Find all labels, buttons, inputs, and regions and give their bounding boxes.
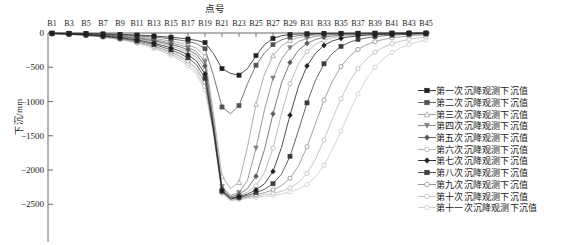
- series-line: [50, 32, 428, 201]
- legend-marker-icon: [418, 144, 436, 155]
- legend-marker-icon: [418, 85, 436, 96]
- x-tick-label: B27: [266, 19, 279, 28]
- legend-item[interactable]: 第六次沉降观测下沉值: [418, 143, 580, 155]
- series-line: [50, 31, 429, 199]
- legend-marker-icon: [418, 155, 436, 166]
- series-line: [50, 32, 428, 201]
- chart-title: 点号: [0, 1, 430, 15]
- legend-marker-icon: [418, 97, 436, 108]
- legend-marker-icon: [418, 191, 436, 202]
- x-tick-label: B23: [232, 19, 245, 28]
- legend-item[interactable]: 第九次沉降观测下沉值: [418, 179, 580, 191]
- axis-spines: [48, 33, 430, 242]
- y-tick-label: −2500: [4, 199, 44, 209]
- y-tick-label: −500: [4, 62, 44, 72]
- x-tick-label: B17: [181, 19, 194, 28]
- legend-item[interactable]: 第二次沉降观测下沉值: [418, 97, 580, 109]
- x-tick-label: B39: [368, 19, 381, 28]
- x-axis-tick-labels: B1B3B5B7B9B11B13B15B17B19B21B23B25B27B29…: [0, 19, 580, 32]
- legend-marker-icon: [418, 120, 436, 131]
- y-tick-label: −1500: [4, 131, 44, 141]
- legend-marker-icon: [418, 179, 436, 190]
- x-tick-label: B41: [385, 19, 398, 28]
- x-tick-label: B11: [130, 19, 143, 28]
- legend-item[interactable]: 第七次沉降观测下沉值: [418, 155, 580, 167]
- legend-marker-icon: [418, 202, 436, 213]
- chart-root: 点号 下沉/mm 0−500−1000−1500−2000−2500 B1B3B…: [0, 0, 580, 245]
- series-line: [50, 31, 429, 195]
- legend-item[interactable]: 第八次沉降观测下沉值: [418, 167, 580, 179]
- legend-marker-icon: [418, 167, 436, 178]
- x-tick-label: B45: [419, 19, 432, 28]
- series-line: [50, 31, 429, 198]
- y-tick-label: −2000: [4, 165, 44, 175]
- legend-item[interactable]: 第五次沉降观测下沉值: [418, 132, 580, 144]
- legend-marker-icon: [418, 109, 436, 120]
- x-tick-label: B21: [215, 19, 228, 28]
- x-tick-label: B25: [249, 19, 262, 28]
- x-tick-label: B19: [198, 19, 211, 28]
- plot-area: [48, 33, 430, 218]
- legend-item[interactable]: 第一次沉降观测下沉值: [418, 85, 580, 97]
- legend-item[interactable]: 第十一次沉降观测下沉值: [418, 202, 580, 214]
- x-tick-label: B43: [402, 19, 415, 28]
- x-tick-label: B9: [115, 19, 124, 28]
- x-tick-label: B5: [81, 19, 90, 28]
- legend-label: 第十一次沉降观测下沉值: [436, 201, 537, 214]
- x-tick-label: B31: [300, 19, 313, 28]
- x-tick-label: B33: [317, 19, 330, 28]
- legend-marker-icon: [418, 132, 436, 143]
- series-line: [50, 32, 428, 200]
- series-line: [50, 31, 428, 198]
- x-tick-label: B29: [283, 19, 296, 28]
- y-tick-label: −1000: [4, 97, 44, 107]
- plot-svg: [48, 33, 430, 245]
- x-tick-label: B3: [64, 19, 73, 28]
- x-tick-label: B35: [334, 19, 347, 28]
- x-tick-label: B13: [147, 19, 160, 28]
- chart-legend: 第一次沉降观测下沉值第二次沉降观测下沉值第三次沉降观测下沉值第四次沉降观测下沉值…: [418, 85, 580, 214]
- series-line: [50, 31, 429, 189]
- x-tick-label: B1: [47, 19, 56, 28]
- x-tick-label: B37: [351, 19, 364, 28]
- legend-item[interactable]: 第十次沉降观测下沉值: [418, 190, 580, 202]
- x-tick-label: B7: [98, 19, 107, 28]
- x-tick-label: B15: [164, 19, 177, 28]
- series-line: [50, 32, 428, 202]
- y-axis-tick-labels: 0−500−1000−1500−2000−2500: [4, 0, 44, 245]
- legend-item[interactable]: 第四次沉降观测下沉值: [418, 120, 580, 132]
- legend-item[interactable]: 第三次沉降观测下沉值: [418, 108, 580, 120]
